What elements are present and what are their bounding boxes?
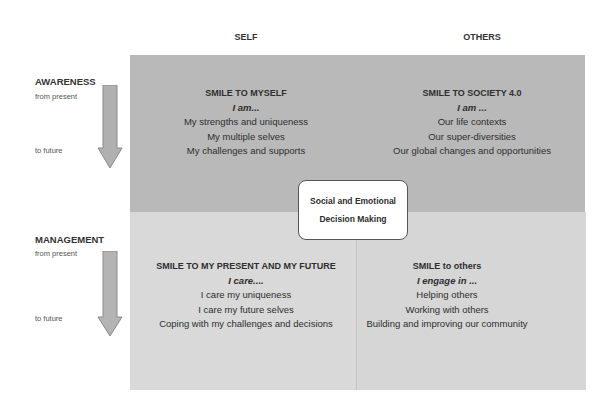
management-down-arrow-icon bbox=[97, 251, 123, 337]
quadrant-prompt: I am ... bbox=[393, 101, 551, 116]
quadrant-title: SMILE to others bbox=[366, 259, 527, 274]
quadrant-prompt: I engage in ... bbox=[366, 274, 527, 289]
quadrant-item: Helping others bbox=[366, 288, 527, 303]
center-box-line-1: Social and Emotional bbox=[310, 196, 396, 206]
quadrant-item: Working with others bbox=[366, 303, 527, 318]
quadrant-item: I care my uniqueness bbox=[156, 288, 336, 303]
quadrant-item: Our life contexts bbox=[393, 115, 551, 130]
quadrant-smile-to-society: SMILE TO SOCIETY 4.0 I am ... Our life c… bbox=[393, 86, 551, 159]
row-label-management: MANAGEMENT bbox=[35, 234, 104, 245]
quadrant-smile-to-present-future: SMILE TO MY PRESENT AND MY FUTURE I care… bbox=[156, 259, 336, 332]
quadrant-item: My strengths and uniqueness bbox=[184, 115, 308, 130]
row-label-awareness: AWARENESS bbox=[35, 76, 96, 87]
column-header-self: SELF bbox=[234, 32, 257, 42]
awareness-from-present: from present bbox=[35, 92, 77, 101]
quadrant-title: SMILE TO SOCIETY 4.0 bbox=[393, 86, 551, 101]
quadrant-prompt: I care.... bbox=[156, 274, 336, 289]
quadrant-item: My multiple selves bbox=[184, 130, 308, 145]
quadrant-smile-to-others: SMILE to others I engage in ... Helping … bbox=[366, 259, 527, 332]
center-box-line-2: Decision Making bbox=[319, 214, 386, 224]
quadrant-item: Our super-diversities bbox=[393, 130, 551, 145]
quadrant-title: SMILE TO MY PRESENT AND MY FUTURE bbox=[156, 259, 336, 274]
quadrant-item: Our global changes and opportunities bbox=[393, 144, 551, 159]
quadrant-item: Building and improving our community bbox=[366, 317, 527, 332]
quadrant-smile-to-myself: SMILE TO MYSELF I am... My strengths and… bbox=[184, 86, 308, 159]
quadrant-prompt: I am... bbox=[184, 101, 308, 116]
quadrant-item: I care my future selves bbox=[156, 303, 336, 318]
management-to-future: to future bbox=[35, 314, 63, 323]
center-decision-making-box: Social and Emotional Decision Making bbox=[298, 180, 408, 240]
awareness-down-arrow-icon bbox=[97, 85, 123, 169]
quadrant-item: Coping with my challenges and decisions bbox=[156, 317, 336, 332]
management-from-present: from present bbox=[35, 249, 77, 258]
quadrant-title: SMILE TO MYSELF bbox=[184, 86, 308, 101]
awareness-to-future: to future bbox=[35, 146, 63, 155]
column-header-others: OTHERS bbox=[463, 32, 501, 42]
quadrant-item: My challenges and supports bbox=[184, 144, 308, 159]
